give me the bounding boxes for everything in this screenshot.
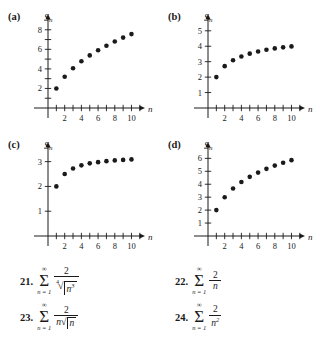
problem-24-summation: ∞ Σ n = 1 bbox=[192, 302, 206, 332]
problem-24-numerator: 2 bbox=[211, 305, 220, 315]
panel-d: (d) Sn n246810123456 bbox=[160, 128, 320, 258]
svg-text:6: 6 bbox=[96, 113, 100, 123]
svg-text:6: 6 bbox=[96, 241, 100, 251]
problem-21-numerator: 2 bbox=[62, 267, 71, 277]
svg-text:2: 2 bbox=[223, 241, 227, 251]
svg-text:n: n bbox=[148, 104, 153, 114]
problem-22-denominator: n bbox=[211, 281, 220, 292]
problem-22: 22. ∞ Σ n = 1 2 n bbox=[175, 266, 221, 296]
problem-22-numerator: 2 bbox=[211, 271, 220, 281]
problem-23-numerator: 2 bbox=[62, 306, 71, 316]
panel-c-plot: n246810123 bbox=[0, 128, 160, 258]
problem-21-radicand: n3 bbox=[64, 281, 77, 295]
svg-text:2: 2 bbox=[38, 83, 42, 93]
svg-text:2: 2 bbox=[223, 113, 227, 123]
svg-text:2: 2 bbox=[198, 205, 202, 215]
panel-a: (a) Sn n2468102468 bbox=[0, 0, 160, 130]
svg-text:6: 6 bbox=[38, 44, 42, 54]
sigma-icon: Σ bbox=[39, 273, 49, 288]
svg-text:n: n bbox=[308, 232, 313, 242]
svg-text:1: 1 bbox=[198, 218, 202, 228]
problem-21-summation: ∞ Σ n = 1 bbox=[37, 266, 51, 296]
svg-text:10: 10 bbox=[287, 241, 296, 251]
problem-24: 24. ∞ Σ n = 1 2 n2 bbox=[175, 302, 221, 332]
problem-24-fraction: 2 n2 bbox=[209, 305, 221, 328]
svg-text:4: 4 bbox=[239, 241, 244, 251]
figure-page: (a) Sn n2468102468 (b) Sn n24681012345 (… bbox=[0, 0, 320, 342]
problem-22-number: 22. bbox=[175, 276, 188, 287]
radical-icon: 4 √ n3 bbox=[56, 281, 76, 295]
svg-text:3: 3 bbox=[38, 157, 42, 167]
svg-text:4: 4 bbox=[239, 113, 244, 123]
problem-23-summation: ∞ Σ n = 1 bbox=[37, 302, 51, 332]
problem-22-fraction: 2 n bbox=[209, 271, 221, 292]
problem-22-summation: ∞ Σ n = 1 bbox=[192, 266, 206, 296]
problem-22-sum-lower: n = 1 bbox=[192, 288, 206, 296]
svg-text:4: 4 bbox=[198, 179, 203, 189]
svg-text:2: 2 bbox=[63, 113, 67, 123]
svg-text:4: 4 bbox=[79, 113, 84, 123]
problem-21-number: 21. bbox=[20, 276, 33, 287]
svg-text:10: 10 bbox=[127, 113, 136, 123]
radical-icon: √n bbox=[61, 317, 76, 329]
svg-text:2: 2 bbox=[38, 181, 42, 191]
problem-21-sum-lower: n = 1 bbox=[37, 288, 51, 296]
problem-21: 21. ∞ Σ n = 1 2 4 √ n3 bbox=[20, 266, 79, 296]
problem-21-fraction: 2 4 √ n3 bbox=[54, 267, 78, 295]
svg-text:8: 8 bbox=[38, 25, 42, 35]
problem-23: 23. ∞ Σ n = 1 2 n√n bbox=[20, 302, 78, 332]
svg-text:2: 2 bbox=[198, 72, 202, 82]
svg-text:8: 8 bbox=[273, 241, 277, 251]
svg-text:2: 2 bbox=[63, 241, 67, 251]
panel-c: (c) Sn n246810123 bbox=[0, 128, 160, 258]
svg-text:n: n bbox=[308, 104, 313, 114]
problem-23-sum-lower: n = 1 bbox=[37, 324, 51, 332]
svg-text:1: 1 bbox=[198, 88, 202, 98]
problem-24-denominator: n2 bbox=[209, 316, 221, 329]
problem-21-denominator: 4 √ n3 bbox=[54, 277, 78, 295]
svg-text:4: 4 bbox=[79, 241, 84, 251]
svg-text:6: 6 bbox=[198, 153, 202, 163]
problem-24-sum-lower: n = 1 bbox=[192, 324, 206, 332]
panel-b: (b) Sn n24681012345 bbox=[160, 0, 320, 130]
svg-text:4: 4 bbox=[38, 64, 43, 74]
svg-text:3: 3 bbox=[198, 57, 202, 67]
problem-23-radicand: n bbox=[67, 317, 77, 329]
svg-text:8: 8 bbox=[113, 241, 117, 251]
problem-23-number: 23. bbox=[20, 312, 33, 323]
panel-d-plot: n246810123456 bbox=[160, 128, 320, 258]
svg-text:1: 1 bbox=[38, 206, 42, 216]
problem-23-fraction: 2 n√n bbox=[54, 306, 78, 329]
sigma-icon: Σ bbox=[194, 273, 204, 288]
svg-text:5: 5 bbox=[198, 26, 202, 36]
svg-text:8: 8 bbox=[273, 113, 277, 123]
svg-text:10: 10 bbox=[127, 241, 136, 251]
svg-text:10: 10 bbox=[287, 113, 296, 123]
problem-21-root-index: 4 bbox=[56, 280, 59, 286]
svg-text:4: 4 bbox=[198, 41, 203, 51]
svg-text:n: n bbox=[148, 232, 153, 242]
svg-text:8: 8 bbox=[113, 113, 117, 123]
svg-text:3: 3 bbox=[198, 192, 202, 202]
sigma-icon: Σ bbox=[194, 309, 204, 324]
problem-24-number: 24. bbox=[175, 312, 188, 323]
sigma-icon: Σ bbox=[39, 309, 49, 324]
problem-list: 21. ∞ Σ n = 1 2 4 √ n3 22. bbox=[0, 264, 320, 342]
svg-text:6: 6 bbox=[256, 113, 260, 123]
panel-b-plot: n24681012345 bbox=[160, 0, 320, 130]
svg-text:5: 5 bbox=[198, 166, 202, 176]
svg-text:6: 6 bbox=[256, 241, 260, 251]
panel-a-plot: n2468102468 bbox=[0, 0, 160, 130]
problem-23-denominator: n√n bbox=[54, 316, 78, 329]
